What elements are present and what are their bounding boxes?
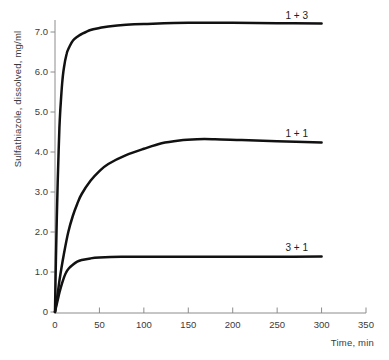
y-tick-label: 3.0: [35, 186, 48, 197]
curve-1+3: [55, 23, 322, 312]
x-tick-label: 200: [225, 319, 241, 330]
x-tick-label: 300: [314, 319, 330, 330]
dissolution-chart: 05010015020025030035001.02.03.04.05.06.0…: [0, 0, 389, 360]
y-tick-label: 1.0: [35, 266, 48, 277]
y-tick-label: 7.0: [35, 26, 48, 37]
chart-canvas: 05010015020025030035001.02.03.04.05.06.0…: [0, 0, 389, 360]
y-axis-title: Sulfathiazole, dissolved, mg/ml: [12, 31, 23, 168]
x-axis-title: Time, min: [331, 337, 374, 348]
x-tick-label: 100: [136, 319, 152, 330]
series-label-1+3: 1 + 3: [285, 10, 308, 21]
y-tick-label: 0: [43, 306, 48, 317]
y-tick-label: 2.0: [35, 226, 48, 237]
curve-3+1: [55, 256, 322, 312]
x-tick-label: 350: [358, 319, 374, 330]
x-tick-label: 250: [269, 319, 285, 330]
y-tick-label: 5.0: [35, 106, 48, 117]
x-tick-label: 0: [52, 319, 57, 330]
y-tick-label: 6.0: [35, 66, 48, 77]
x-tick-label: 150: [180, 319, 196, 330]
x-tick-label: 50: [94, 319, 105, 330]
curve-1+1: [55, 139, 322, 312]
series-label-1+1: 1 + 1: [285, 128, 308, 139]
y-tick-label: 4.0: [35, 146, 48, 157]
series-label-3+1: 3 + 1: [285, 242, 308, 253]
